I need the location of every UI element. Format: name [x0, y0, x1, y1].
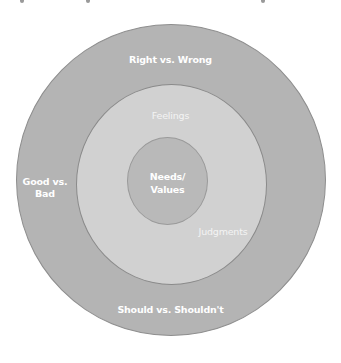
text-descender — [20, 0, 24, 3]
text-descender — [261, 0, 265, 3]
label-should-vs-shouldnt: Should vs. Shouldn't — [0, 304, 341, 316]
label-right-vs-wrong: Right vs. Wrong — [0, 54, 341, 66]
label-values: Values — [127, 184, 208, 196]
label-good-vs-bad-line2: Bad — [20, 188, 70, 200]
concentric-circles-diagram: Right vs. Wrong Good vs. Bad Should vs. … — [0, 0, 341, 363]
label-good-vs-bad-line1: Good vs. — [20, 176, 70, 188]
label-feelings: Feelings — [0, 110, 341, 122]
cropped-text-above — [0, 0, 341, 6]
text-descender — [86, 0, 90, 3]
label-judgments: Judgments — [188, 226, 258, 238]
label-needs: Needs/ — [127, 171, 208, 183]
